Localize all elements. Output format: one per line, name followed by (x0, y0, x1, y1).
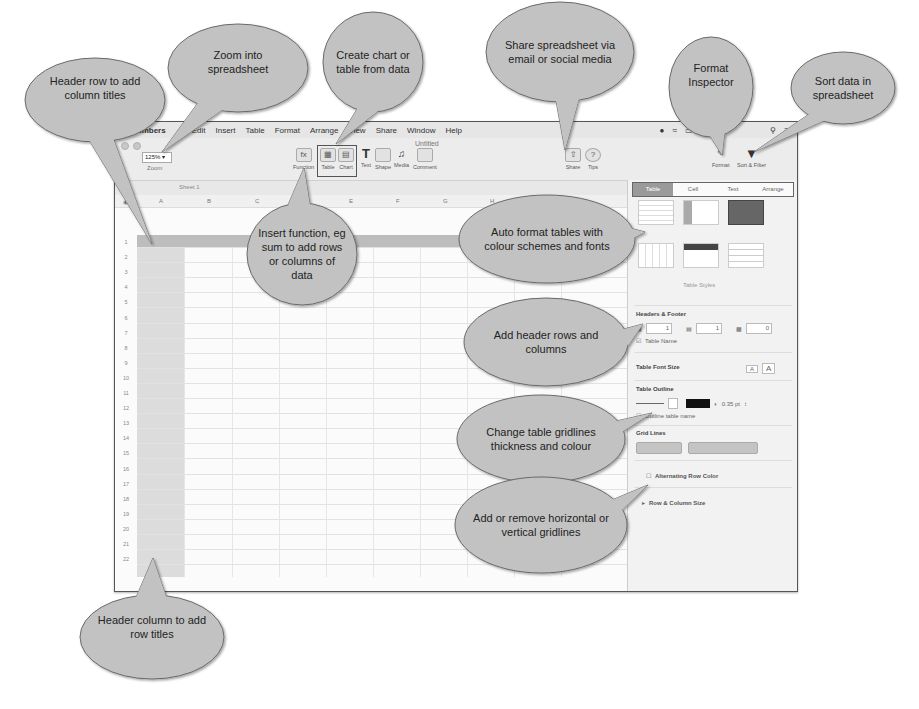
menu-edit[interactable]: Edit (192, 126, 206, 135)
outline-width-field[interactable]: 0.35 pt (722, 401, 740, 407)
column-header[interactable]: F (396, 198, 400, 204)
footer-rows-stepper[interactable]: 0 (746, 323, 772, 334)
battery-icon[interactable]: ▭ (685, 126, 693, 135)
menu-view[interactable]: View (348, 126, 365, 135)
alternating-row-color-row: ☐Alternating Row Color (646, 472, 718, 479)
apple-icon[interactable]:  (115, 125, 131, 135)
outline-color-well[interactable] (686, 399, 710, 408)
row-header[interactable]: 7 (115, 330, 137, 336)
table-style-4[interactable] (638, 243, 674, 268)
search-icon[interactable]: ⚲ (770, 126, 776, 135)
outline-table-name-checkbox[interactable]: ☐ (636, 412, 641, 419)
minimize-button[interactable] (133, 142, 141, 150)
row-header[interactable]: 19 (115, 511, 137, 517)
row-header[interactable]: 11 (115, 390, 137, 396)
row-header[interactable]: 20 (115, 526, 137, 532)
menu-arrange[interactable]: Arrange (310, 126, 338, 135)
vertical-gridlines-button[interactable] (688, 442, 758, 454)
sheet-tab[interactable]: Sheet 1 (179, 184, 200, 190)
header-cols-stepper[interactable]: 1 (696, 323, 722, 334)
row-column-size-row[interactable]: ▸Row & Column Size (642, 499, 705, 506)
row-header[interactable]: 8 (115, 345, 137, 351)
gridline (137, 383, 627, 384)
gridline (232, 247, 233, 577)
menu-insert[interactable]: Insert (215, 126, 235, 135)
table-style-1[interactable] (638, 200, 674, 225)
row-header[interactable]: 10 (115, 375, 137, 381)
menu-window[interactable]: Window (407, 126, 435, 135)
line-style-arrow[interactable] (668, 398, 678, 409)
row-header[interactable]: 6 (115, 315, 137, 321)
media-button[interactable]: ♫Media (394, 148, 409, 168)
text-button[interactable]: TText (359, 148, 373, 168)
divider (634, 380, 792, 381)
function-button[interactable]: fxFunction (293, 148, 314, 170)
row-header[interactable]: 3 (115, 269, 137, 275)
header-column[interactable] (137, 247, 185, 577)
column-header[interactable]: A (159, 198, 163, 204)
tab-cell[interactable]: Cell (673, 183, 713, 196)
row-header[interactable]: 1 (115, 239, 137, 245)
menu-table[interactable]: Table (246, 126, 265, 135)
list-icon[interactable]: ≡ (784, 126, 789, 135)
close-button[interactable] (121, 142, 129, 150)
tab-text[interactable]: Text (713, 183, 753, 196)
divider (634, 487, 792, 488)
font-decrease-button[interactable]: A (746, 365, 758, 373)
row-header[interactable]: 2 (115, 254, 137, 260)
disclosure-triangle-icon[interactable]: ▸ (642, 499, 645, 506)
table-style-6[interactable] (728, 243, 764, 268)
outline-width-stepper[interactable]: ↕ (744, 401, 747, 407)
row-header[interactable]: 12 (115, 405, 137, 411)
format-button[interactable]: ✎Format (712, 148, 729, 168)
column-header[interactable]: G (443, 198, 448, 204)
header-rows-stepper[interactable]: 1 (646, 323, 672, 334)
alternating-row-checkbox[interactable]: ☐ (646, 472, 651, 479)
line-style-select[interactable] (636, 403, 664, 404)
status-area: ● ≈ ▭ Tue ⚲ ≡ (660, 126, 797, 135)
row-header[interactable]: 16 (115, 466, 137, 472)
row-header[interactable]: 5 (115, 299, 137, 305)
table-name-checkbox[interactable]: ☑ (636, 337, 641, 344)
tab-arrange[interactable]: Arrange (753, 183, 793, 196)
column-header[interactable]: B (207, 198, 211, 204)
row-header[interactable]: 13 (115, 420, 137, 426)
menu-share[interactable]: Share (376, 126, 397, 135)
column-header[interactable]: E (349, 198, 353, 204)
chart-button[interactable]: ▤Chart (338, 148, 354, 170)
callout-text: Sort data in spreadsheet (801, 59, 884, 117)
row-header[interactable]: 9 (115, 360, 137, 366)
share-button[interactable]: ⇧Share (565, 148, 581, 170)
row-header[interactable]: 14 (115, 435, 137, 441)
row-header[interactable]: 21 (115, 541, 137, 547)
color-picker-icon[interactable]: ◐ (714, 401, 718, 407)
comment-button[interactable]: Comment (413, 148, 437, 170)
table-style-3[interactable] (728, 200, 764, 225)
callout-text: Header row to add column titles (39, 54, 151, 121)
clock[interactable]: Tue (701, 126, 715, 135)
table-style-5[interactable] (683, 243, 719, 268)
user-icon[interactable]: ● (660, 126, 665, 135)
text-icon: T (359, 148, 373, 160)
sort-filter-button[interactable]: ▼Sort & Filter (737, 148, 766, 168)
row-header[interactable]: 22 (115, 556, 137, 562)
tab-table[interactable]: Table (633, 183, 673, 196)
select-all-icon[interactable]: ◉ (123, 198, 128, 205)
font-increase-button[interactable]: A (762, 363, 775, 374)
menu-help[interactable]: Help (445, 126, 461, 135)
column-header[interactable]: C (255, 198, 259, 204)
row-header[interactable]: 17 (115, 481, 137, 487)
shape-button[interactable]: Shape (375, 148, 391, 170)
horizontal-gridlines-button[interactable] (636, 442, 682, 454)
wifi-icon[interactable]: ≈ (672, 126, 676, 135)
row-header[interactable]: 18 (115, 496, 137, 502)
tips-button[interactable]: ?Tips (585, 148, 601, 170)
menu-numbers[interactable]: Numbers (131, 126, 166, 135)
zoom-select[interactable]: 125% ▾ (142, 152, 172, 163)
row-header[interactable]: 4 (115, 284, 137, 290)
column-header[interactable]: D (302, 198, 306, 204)
table-style-2[interactable] (683, 200, 719, 225)
menu-format[interactable]: Format (275, 126, 300, 135)
table-button[interactable]: ▦Table (320, 148, 336, 170)
row-header[interactable]: 15 (115, 450, 137, 456)
